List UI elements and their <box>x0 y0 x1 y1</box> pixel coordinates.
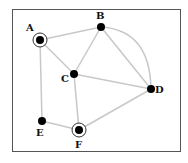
node-label-a: A <box>25 22 34 33</box>
node-dot-icon <box>75 126 83 134</box>
node-label-e: E <box>36 127 44 138</box>
node-label-d: D <box>155 84 164 95</box>
node-label-b: B <box>96 10 104 21</box>
node-dot-icon <box>70 70 78 78</box>
node-b: B <box>96 10 105 31</box>
node-label-c: C <box>61 73 69 84</box>
graph-diagram: A B C D E F <box>0 0 188 163</box>
node-dot-icon <box>97 23 105 31</box>
node-dot-icon <box>38 117 46 125</box>
node-label-f: F <box>75 139 82 150</box>
node-dot-icon <box>36 36 44 44</box>
node-dot-icon <box>147 85 155 93</box>
